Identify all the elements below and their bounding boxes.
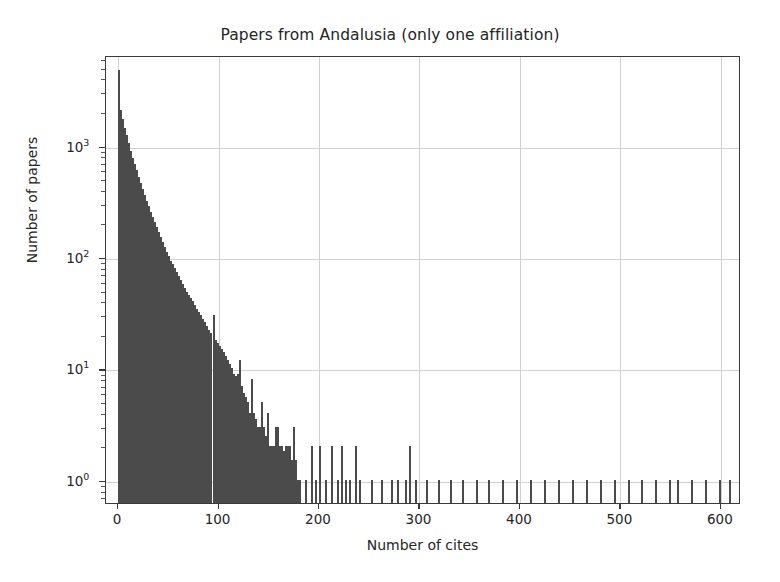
y-axis-minor-tick (101, 113, 105, 114)
y-axis-minor-tick (101, 60, 105, 61)
histogram-bar (311, 446, 313, 503)
y-axis-minor-tick (101, 316, 105, 317)
x-axis-tick-label: 600 (690, 511, 750, 527)
histogram-bar (359, 480, 361, 503)
y-axis-minor-tick (101, 269, 105, 270)
histogram-bar (315, 480, 317, 503)
histogram-bar (719, 480, 721, 503)
histogram-bar (691, 480, 693, 503)
x-axis-tick (418, 504, 419, 509)
y-axis-minor-tick (101, 205, 105, 206)
y-axis-tick (99, 258, 105, 259)
histogram-bar (488, 480, 490, 503)
x-axis-tick (218, 504, 219, 509)
x-axis-tick (619, 504, 620, 509)
y-axis-minor-tick (101, 224, 105, 225)
y-axis-minor-tick (101, 375, 105, 376)
bars-layer (106, 57, 739, 503)
y-axis-tick (99, 481, 105, 482)
y-axis-minor-tick (101, 152, 105, 153)
y-axis-minor-tick (101, 380, 105, 381)
histogram-bar (345, 480, 347, 503)
y-axis-minor-tick (101, 164, 105, 165)
histogram-bar (677, 480, 679, 503)
histogram-bar (405, 480, 407, 503)
histogram-bar (530, 480, 532, 503)
histogram-bar (572, 480, 574, 503)
histogram-bar (544, 480, 546, 503)
y-axis-tick-label: 102 (0, 248, 98, 266)
x-axis-tick-label: 100 (188, 511, 248, 527)
y-axis-label: Number of papers (24, 110, 40, 290)
y-axis-tick (99, 369, 105, 370)
x-axis-tick-label: 200 (288, 511, 348, 527)
y-axis-minor-tick (101, 387, 105, 388)
y-axis-tick-label: 100 (0, 471, 98, 489)
histogram-bar (586, 480, 588, 503)
y-axis-minor-tick (101, 292, 105, 293)
y-axis-minor-tick (101, 157, 105, 158)
y-axis-minor-tick (101, 336, 105, 337)
plot-area (105, 56, 740, 504)
y-axis-minor-tick (101, 69, 105, 70)
y-axis-minor-tick (101, 180, 105, 181)
histogram-bar (705, 480, 707, 503)
histogram-bar (600, 480, 602, 503)
histogram-bar (305, 480, 307, 503)
y-axis-minor-tick (101, 191, 105, 192)
histogram-bar (319, 446, 321, 503)
y-axis-tick (99, 147, 105, 148)
histogram-bar (502, 480, 504, 503)
figure-canvas: Papers from Andalusia (only one affiliat… (0, 0, 780, 582)
histogram-bar (391, 480, 393, 503)
histogram-bar (438, 480, 440, 503)
x-axis-tick (720, 504, 721, 509)
y-axis-tick-label: 103 (0, 137, 98, 155)
y-axis-minor-tick (101, 263, 105, 264)
x-axis-tick (318, 504, 319, 509)
x-axis-tick (519, 504, 520, 509)
page-title: Papers from Andalusia (only one affiliat… (0, 26, 780, 44)
histogram-bar (641, 480, 643, 503)
histogram-bar (426, 480, 428, 503)
histogram-bar (325, 480, 327, 503)
y-axis-minor-tick (101, 428, 105, 429)
y-axis-minor-tick (101, 275, 105, 276)
histogram-bar (341, 446, 343, 503)
histogram-bar (558, 480, 560, 503)
y-axis-tick-label: 101 (0, 359, 98, 377)
histogram-bar (381, 480, 383, 503)
y-axis-minor-tick (101, 498, 105, 499)
x-axis-tick-label: 400 (489, 511, 549, 527)
x-axis-label: Number of cites (105, 537, 740, 553)
histogram-bar (397, 480, 399, 503)
y-axis-minor-tick (101, 492, 105, 493)
y-axis-minor-tick (101, 171, 105, 172)
y-axis-minor-tick (101, 414, 105, 415)
y-axis-minor-tick (101, 394, 105, 395)
x-axis-tick (117, 504, 118, 509)
histogram-bar (614, 480, 616, 503)
histogram-bar (409, 446, 411, 503)
y-axis-minor-tick (101, 403, 105, 404)
histogram-bar (371, 480, 373, 503)
x-axis-tick-label: 500 (589, 511, 649, 527)
histogram-bar (729, 480, 731, 503)
y-axis-minor-tick (101, 283, 105, 284)
y-axis-minor-tick (101, 79, 105, 80)
x-axis-tick-label: 300 (388, 511, 448, 527)
y-axis-minor-tick (101, 302, 105, 303)
histogram-bar (462, 480, 464, 503)
histogram-bar (355, 446, 357, 503)
histogram-bar (415, 480, 417, 503)
histogram-bar (331, 446, 333, 503)
histogram-bar (299, 480, 301, 503)
histogram-bar (655, 480, 657, 503)
histogram-bar (450, 480, 452, 503)
histogram-bar (337, 480, 339, 503)
y-axis-minor-tick (101, 486, 105, 487)
x-axis-tick-label: 0 (87, 511, 147, 527)
histogram-bar (669, 480, 671, 503)
histogram-bar (349, 480, 351, 503)
histogram-bar (628, 480, 630, 503)
